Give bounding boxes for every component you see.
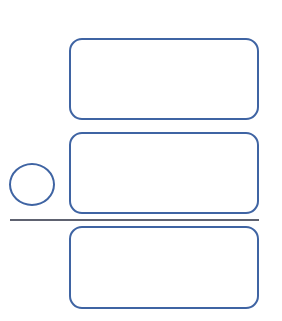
diagram-canvas <box>0 0 282 321</box>
circle-node <box>9 163 55 206</box>
box-top <box>69 38 259 120</box>
box-middle <box>69 132 259 214</box>
horizontal-divider-line <box>10 219 259 221</box>
box-bottom <box>69 226 259 309</box>
